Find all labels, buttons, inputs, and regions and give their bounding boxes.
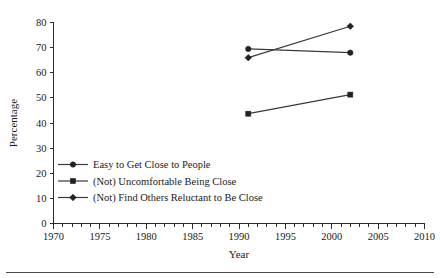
legend-item-label: Easy to Get Close to People [93, 159, 211, 170]
x-tick-label: 1975 [89, 231, 110, 242]
legend-swatch-circle-marker [70, 162, 75, 167]
legend: Easy to Get Close to People(Not) Uncomfo… [58, 159, 263, 204]
x-tick-label: 1995 [275, 231, 296, 242]
y-tick-label: 80 [36, 17, 47, 28]
axes-group: 0102030405060708019701975198019851990199… [36, 17, 435, 241]
series-group [245, 23, 354, 116]
x-axis-title: Year [229, 248, 250, 260]
line-chart: 0102030405060708019701975198019851990199… [0, 0, 440, 278]
x-tick-label: 1980 [136, 231, 157, 242]
x-tick-label: 2010 [414, 231, 435, 242]
x-tick-label: 2000 [321, 231, 342, 242]
data-point-circle-marker [348, 50, 353, 55]
legend-item-label: (Not) Find Others Reluctant to Be Close [93, 192, 263, 204]
y-tick-label: 10 [36, 193, 47, 204]
y-tick-label: 0 [41, 218, 46, 229]
legend-item[interactable]: Easy to Get Close to People [58, 159, 211, 170]
series-3 [245, 23, 354, 61]
y-tick-label: 50 [36, 92, 47, 103]
y-tick-label: 30 [36, 143, 47, 154]
legend-swatch-square-marker [71, 179, 76, 184]
x-tick-label: 2005 [368, 231, 389, 242]
y-tick-label: 20 [36, 168, 47, 179]
series-line [248, 49, 350, 53]
x-tick-label: 1990 [229, 231, 250, 242]
series-2 [246, 92, 353, 116]
data-point-circle-marker [246, 46, 251, 51]
legend-swatch-diamond-marker [70, 194, 77, 201]
y-axis-title: Percentage [7, 99, 19, 147]
legend-item-label: (Not) Uncomfortable Being Close [93, 176, 237, 188]
y-tick-label: 60 [36, 67, 47, 78]
x-tick-label: 1970 [43, 231, 64, 242]
y-tick-label: 40 [36, 118, 47, 129]
data-point-diamond-marker [347, 23, 354, 30]
y-tick-label: 70 [36, 42, 47, 53]
legend-item[interactable]: (Not) Uncomfortable Being Close [58, 176, 237, 188]
series-line [248, 95, 350, 114]
data-point-square-marker [246, 111, 251, 116]
data-point-diamond-marker [245, 54, 252, 61]
chart-figure: 0102030405060708019701975198019851990199… [0, 0, 440, 278]
x-tick-label: 1985 [182, 231, 203, 242]
data-point-square-marker [348, 92, 353, 97]
legend-item[interactable]: (Not) Find Others Reluctant to Be Close [58, 192, 263, 204]
series-line [248, 26, 350, 57]
